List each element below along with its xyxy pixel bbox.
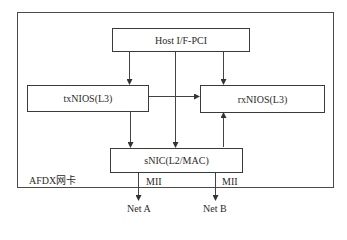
host-pci-label: Host I/F-PCI [155,35,207,46]
txnios-block: txNIOS(L3) [27,85,149,112]
mii-label-left: MII [146,176,162,187]
net-a-label: Net A [127,203,151,214]
rxnios-block: rxNIOS(L3) [200,85,325,113]
snic-block: sNIC(L2/MAC) [110,148,243,173]
afdx-card-label: AFDX网卡 [29,172,76,187]
txnios-label: txNIOS(L3) [64,93,113,104]
mii-label-right: MII [222,176,238,187]
snic-label: sNIC(L2/MAC) [144,155,208,166]
rxnios-label: rxNIOS(L3) [238,94,287,105]
net-b-label: Net B [203,203,227,214]
host-pci-block: Host I/F-PCI [112,28,250,52]
